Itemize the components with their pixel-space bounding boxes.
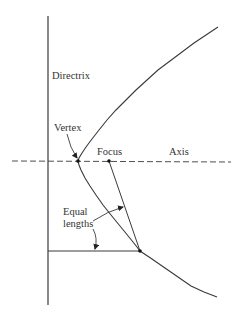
vertex-label: Vertex (54, 122, 82, 133)
equal-label: Equal (63, 206, 88, 217)
focus-point (107, 159, 111, 163)
axis-line (12, 161, 231, 162)
axis-label: Axis (169, 146, 189, 157)
lengths-label: lengths (63, 218, 93, 229)
focus-distance-segment (109, 161, 140, 251)
curve-point (138, 249, 142, 253)
parabola-diagram: Directrix Vertex Focus Axis Equal length… (0, 0, 238, 319)
equal-arrow-to-horizontal-segment (93, 229, 96, 249)
vertex-point (76, 159, 80, 163)
focus-label: Focus (97, 146, 122, 157)
vertex-arrow (67, 134, 77, 158)
equal-arrow-to-focus-segment (93, 207, 123, 221)
directrix-label: Directrix (52, 70, 91, 81)
